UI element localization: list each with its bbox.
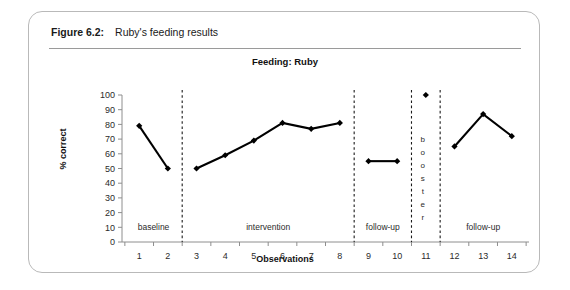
y-tick-label: 80 — [105, 120, 115, 130]
series-segment-baseline — [139, 126, 168, 169]
chart-title: Feeding: Ruby — [29, 56, 541, 67]
line-chart-svg: 0102030405060708090100123456789101112131… — [29, 72, 541, 272]
y-tick-label: 20 — [105, 208, 115, 218]
y-tick-label: 90 — [105, 105, 115, 115]
data-point-marker — [423, 92, 429, 98]
phase-label: baseline — [138, 222, 170, 232]
y-tick-label: 100 — [100, 90, 115, 100]
phase-label-booster-letter: r — [421, 213, 424, 222]
figure-card: Figure 6.2:Ruby's feeding results Feedin… — [28, 11, 540, 273]
y-tick-label: 0 — [110, 237, 115, 247]
phase-label: intervention — [246, 222, 290, 232]
y-tick-label: 50 — [105, 164, 115, 174]
figure-label: Figure 6.2: — [51, 26, 104, 38]
y-tick-label: 70 — [105, 134, 115, 144]
caption-divider — [49, 48, 521, 49]
figure-caption-text: Ruby's feeding results — [115, 26, 218, 38]
phase-label-booster-letter: o — [421, 161, 426, 170]
series-segment-follow-up — [454, 114, 511, 146]
data-point-marker — [365, 158, 371, 164]
y-tick-label: 40 — [105, 178, 115, 188]
x-axis-label: Observations — [29, 254, 541, 264]
data-point-marker — [308, 126, 314, 132]
phase-label-booster-letter: s — [421, 174, 425, 183]
series-segment-intervention — [197, 123, 340, 169]
phase-label-booster-letter: t — [422, 187, 425, 196]
phase-label: follow-up — [466, 222, 500, 232]
data-point-marker — [193, 165, 199, 171]
y-tick-label: 10 — [105, 223, 115, 233]
phase-label-booster-letter: o — [421, 148, 426, 157]
data-point-marker — [337, 120, 343, 126]
chart-plot-area: % correct 010203040506070809010012345678… — [29, 72, 541, 272]
y-tick-label: 30 — [105, 193, 115, 203]
phase-label-booster-letter: e — [421, 200, 426, 209]
y-tick-label: 60 — [105, 149, 115, 159]
phase-label-booster-letter: b — [421, 135, 426, 144]
data-point-marker — [394, 158, 400, 164]
figure-caption: Figure 6.2:Ruby's feeding results — [51, 26, 218, 38]
phase-label: follow-up — [366, 222, 400, 232]
y-axis-label: % correct — [58, 109, 68, 189]
